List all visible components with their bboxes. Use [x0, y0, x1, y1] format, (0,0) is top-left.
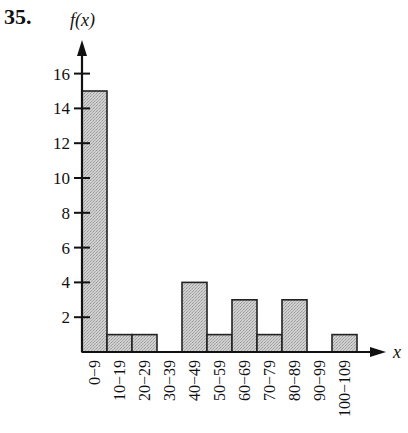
histogram-bar: [107, 335, 132, 352]
y-tick-label: 8: [62, 204, 71, 223]
histogram-bars: [82, 91, 357, 352]
x-tick-label: 80−89: [286, 360, 303, 401]
histogram-chart: 246810121416 0−910−1920−2930−3940−4950−5…: [0, 0, 408, 433]
x-tick-label: 90−99: [311, 360, 328, 401]
x-tick-label: 50−59: [211, 360, 228, 401]
histogram-bar: [232, 300, 257, 352]
y-tick-label: 14: [53, 99, 71, 118]
histogram-bar: [282, 300, 307, 352]
x-tick-label: 100−109: [336, 360, 353, 417]
x-tick-label: 70−79: [261, 360, 278, 401]
y-tick-label: 10: [53, 169, 70, 188]
x-tick-label: 10−19: [111, 360, 128, 401]
x-tick-label: 60−69: [236, 360, 253, 401]
y-axis-arrow-icon: [77, 40, 87, 56]
x-tick-label: 30−39: [161, 360, 178, 401]
y-tick-label: 12: [53, 134, 70, 153]
x-axis-tick-labels: 0−910−1920−2930−3940−4950−5960−6970−7980…: [86, 360, 353, 417]
x-axis-label: x: [392, 342, 401, 362]
y-axis-label: f(x): [70, 10, 95, 31]
y-tick-label: 2: [62, 308, 71, 327]
y-tick-label: 6: [62, 239, 71, 258]
histogram-bar: [82, 91, 107, 352]
x-tick-label: 40−49: [186, 360, 203, 401]
x-axis-arrow-icon: [370, 347, 386, 357]
histogram-bar: [182, 282, 207, 352]
histogram-bar: [332, 335, 357, 352]
histogram-bar: [132, 335, 157, 352]
histogram-bar: [207, 335, 232, 352]
y-tick-label: 4: [62, 273, 71, 292]
histogram-bar: [257, 335, 282, 352]
y-tick-label: 16: [53, 65, 70, 84]
x-tick-label: 0−9: [86, 360, 103, 385]
x-tick-label: 20−29: [136, 360, 153, 401]
